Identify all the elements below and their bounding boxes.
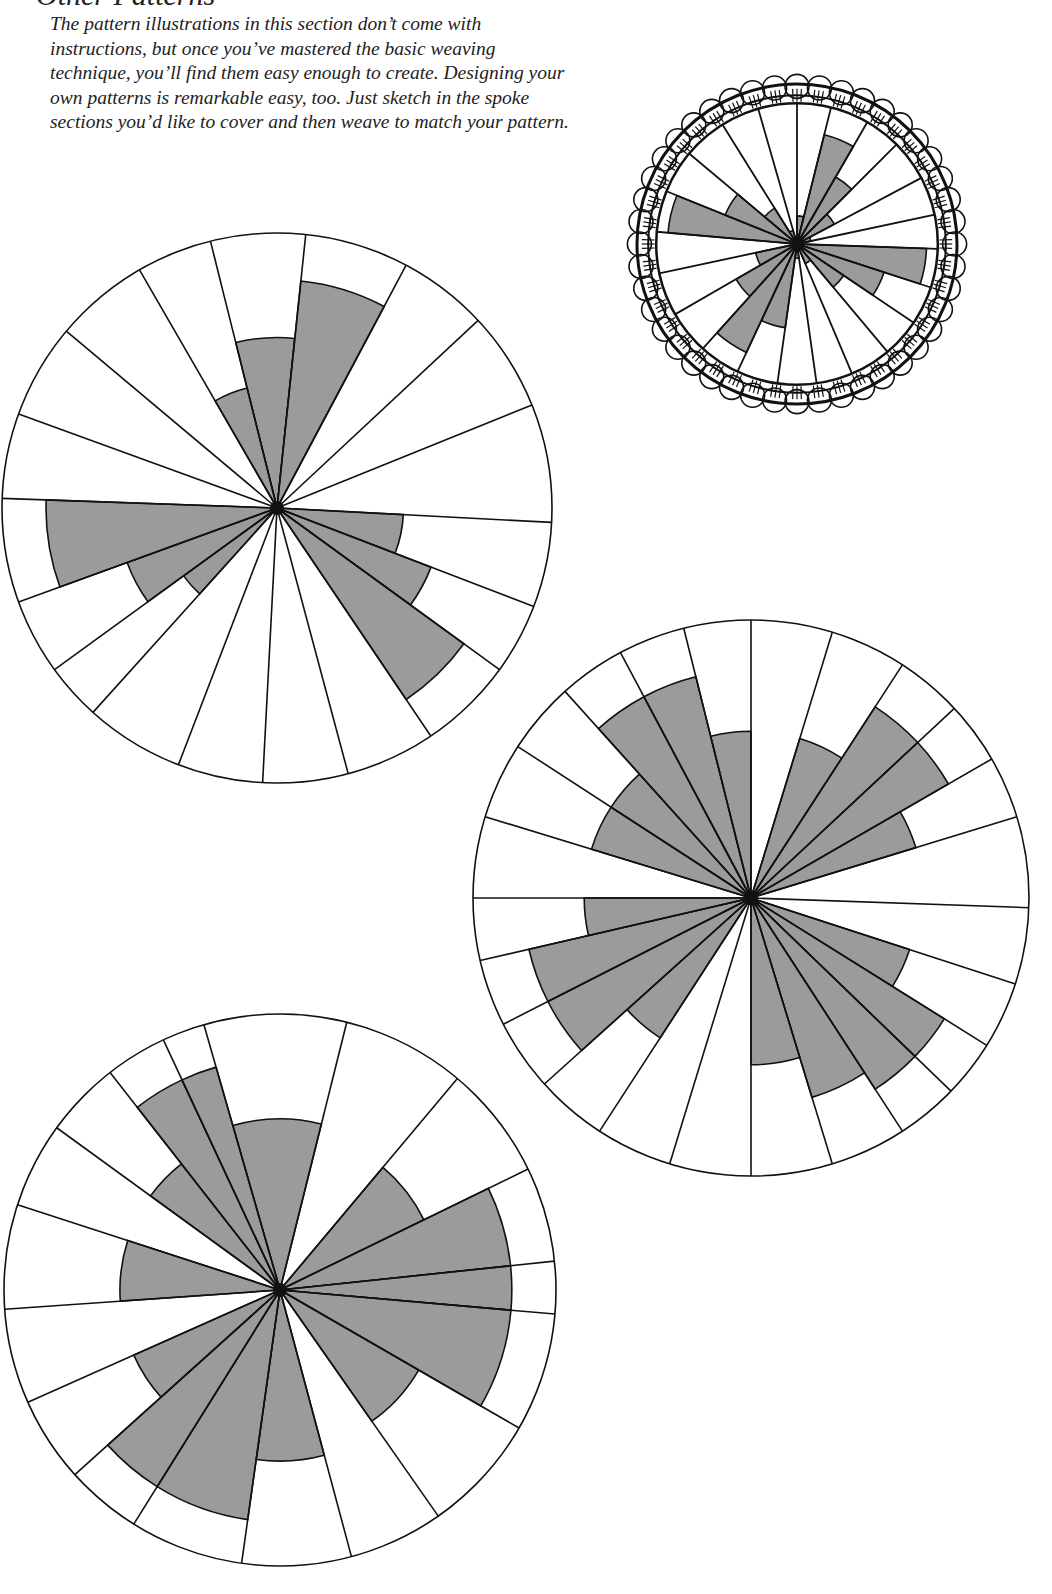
hub-dot [273, 1283, 287, 1297]
pattern-illustrations [0, 0, 1052, 1594]
pattern-wheel-3 [4, 1014, 556, 1566]
hub-dot [270, 501, 284, 515]
hub-dot [791, 238, 803, 250]
pattern-wheel-2 [473, 620, 1029, 1176]
hub-dot [744, 891, 758, 905]
pattern-wheel-1 [2, 233, 552, 783]
finished-basket-wheel [627, 74, 966, 413]
